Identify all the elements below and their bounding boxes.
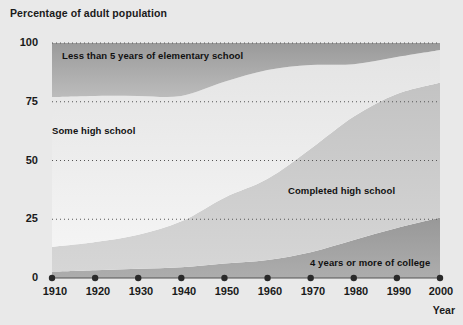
stacked-areas <box>52 43 440 278</box>
band-label-college: 4 years or more of college <box>310 257 430 268</box>
y-tick-100: 100 <box>8 36 38 48</box>
band-label-some-high-school: Some high school <box>52 125 135 136</box>
chart-figure: Percentage of adult population <box>0 0 463 325</box>
x-marker-1980 <box>351 275 357 281</box>
x-tick-1930: 1930 <box>119 285 163 297</box>
x-marker-1960 <box>264 275 270 281</box>
band-label-elementary: Less than 5 years of elementary school <box>62 50 243 61</box>
x-axis-label: Year <box>433 304 455 316</box>
x-tick-1920: 1920 <box>76 285 120 297</box>
x-tick-1990: 1990 <box>377 285 421 297</box>
area-chart-plot <box>0 0 463 325</box>
y-tick-50: 50 <box>8 154 38 166</box>
x-marker-1930 <box>135 275 141 281</box>
x-tick-1980: 1980 <box>334 285 378 297</box>
x-marker-1940 <box>178 275 184 281</box>
x-tick-1970: 1970 <box>291 285 335 297</box>
y-tick-0: 0 <box>8 271 38 283</box>
x-tick-1940: 1940 <box>162 285 206 297</box>
y-tick-25: 25 <box>8 212 38 224</box>
x-marker-1910 <box>49 275 55 281</box>
x-marker-1970 <box>307 275 313 281</box>
x-marker-1950 <box>221 275 227 281</box>
x-marker-1920 <box>92 275 98 281</box>
x-tick-1950: 1950 <box>205 285 249 297</box>
band-label-completed-high-school: Completed high school <box>288 185 395 196</box>
y-tick-75: 75 <box>8 95 38 107</box>
x-tick-1910: 1910 <box>33 285 77 297</box>
x-marker-2000 <box>437 275 443 281</box>
x-tick-2000: 2000 <box>419 285 463 297</box>
x-marker-1990 <box>394 275 400 281</box>
x-tick-1960: 1960 <box>248 285 292 297</box>
